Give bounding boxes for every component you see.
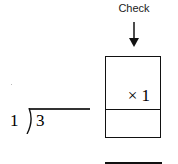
- arrow-down-icon: [127, 22, 141, 48]
- check-label: Check: [116, 2, 152, 14]
- division-bracket: [25, 108, 33, 134]
- divisor: 1: [10, 111, 19, 131]
- check-box-top-cell: × 1: [106, 57, 160, 110]
- division-bar: [29, 108, 90, 110]
- stray-mark: [11, 84, 12, 85]
- answer-line: [105, 162, 162, 164]
- dividend: 3: [36, 111, 45, 131]
- check-box: × 1: [105, 56, 161, 138]
- long-division: 1 3: [10, 108, 82, 134]
- multiplier-text: × 1: [128, 86, 150, 106]
